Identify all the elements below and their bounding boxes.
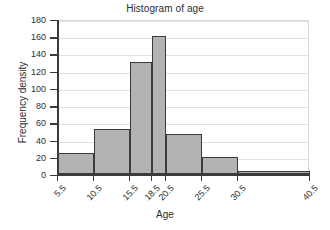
x-axis-tick (151, 175, 152, 181)
y-axis-tick (50, 89, 57, 90)
y-axis-tick (50, 123, 57, 124)
plot-area (57, 20, 309, 175)
y-axis-tick (50, 158, 57, 159)
y-axis-title: Frequency density (17, 33, 28, 173)
x-axis-tick-label: 10.5 (85, 183, 104, 202)
histogram-bar (202, 157, 238, 174)
histogram-bar (130, 62, 152, 174)
y-axis-tick (50, 20, 57, 21)
y-axis-tick (50, 37, 57, 38)
y-axis-line (57, 20, 59, 176)
x-axis-tick (165, 175, 166, 181)
y-axis-tick (50, 72, 57, 73)
y-axis-tick-label: 180 (6, 15, 46, 25)
x-axis-tick (201, 175, 202, 181)
x-axis-tick-label: 20.5 (157, 183, 176, 202)
x-axis-title: Age (0, 209, 330, 220)
histogram-bar (166, 134, 202, 174)
histogram-bar (94, 129, 130, 174)
y-axis-tick (50, 175, 57, 176)
x-axis-tick-label: 15.5 (121, 183, 140, 202)
x-axis-tick (309, 175, 310, 181)
bar-series (58, 21, 308, 174)
histogram-chart: Histogram of age 02040608010012014016018… (0, 0, 330, 230)
histogram-bar (152, 36, 166, 174)
y-axis-tick (50, 54, 57, 55)
x-axis-tick (57, 175, 58, 181)
x-axis-line (57, 174, 310, 176)
chart-title: Histogram of age (0, 3, 330, 14)
x-axis-tick (129, 175, 130, 181)
x-axis-tick (237, 175, 238, 181)
x-axis-tick-label: 30.5 (229, 183, 248, 202)
histogram-bar (58, 153, 94, 174)
x-axis-tick-label: 25.5 (193, 183, 212, 202)
x-axis-tick (93, 175, 94, 181)
x-axis-tick-label: 5.5 (52, 183, 68, 199)
y-axis-tick (50, 141, 57, 142)
x-axis-tick-label: 40.5 (301, 183, 320, 202)
y-axis-tick (50, 106, 57, 107)
